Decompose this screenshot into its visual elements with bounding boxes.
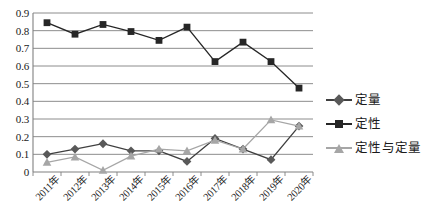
- y-tick-label: 0.8: [16, 25, 29, 36]
- plot-area: [33, 13, 313, 172]
- data-point: [267, 116, 276, 124]
- series-line: [47, 120, 299, 170]
- legend-marker-triangle-icon: [334, 144, 344, 153]
- data-point: [44, 19, 51, 26]
- data-point: [71, 153, 80, 161]
- data-point: [99, 166, 108, 174]
- legend-swatch: [326, 141, 352, 155]
- y-tick-label: 0.5: [16, 78, 29, 89]
- legend-label: 定性: [352, 117, 382, 131]
- series-line: [47, 126, 299, 161]
- legend-item-2[interactable]: 定性: [326, 112, 418, 136]
- data-point: [296, 85, 303, 92]
- x-tick-label: 2019年: [257, 174, 286, 203]
- legend-swatch: [326, 117, 352, 131]
- y-tick-label: 0.9: [16, 8, 29, 19]
- data-point: [100, 21, 107, 28]
- legend-item-1[interactable]: 定量: [326, 88, 418, 112]
- legend-item-3[interactable]: 定性与定量: [326, 136, 418, 160]
- chart-legend: 定量定性定性与定量: [326, 88, 418, 160]
- y-tick-label: 0.1: [16, 149, 29, 160]
- x-axis: 2011年2012年2013年2014年2015年2016年2017年2018年…: [33, 174, 313, 217]
- x-tick-label: 2017年: [201, 174, 230, 203]
- series-line: [47, 23, 299, 88]
- legend-label: 定量: [352, 93, 382, 107]
- y-tick-label: 0.2: [16, 131, 29, 142]
- x-tick-label: 2014年: [117, 174, 146, 203]
- data-point: [128, 28, 135, 35]
- series-layer: [33, 13, 313, 172]
- y-tick-label: 0.4: [16, 96, 29, 107]
- x-tick-label: 2012年: [61, 174, 90, 203]
- y-tick-label: 0: [24, 167, 29, 178]
- data-point: [72, 31, 79, 38]
- y-tick-label: 0.7: [16, 43, 29, 54]
- series-3: [43, 116, 304, 174]
- data-point: [99, 139, 108, 148]
- legend-label: 定性与定量: [352, 141, 422, 155]
- data-point: [240, 39, 247, 46]
- series-1: [43, 122, 304, 166]
- data-point: [43, 150, 52, 159]
- data-point: [268, 58, 275, 65]
- data-point: [212, 58, 219, 65]
- x-tick-label: 2015年: [145, 174, 174, 203]
- x-tick-label: 2016年: [173, 174, 202, 203]
- legend-marker-square-icon: [335, 120, 343, 128]
- y-axis: 0.90.80.70.60.50.40.30.20.10: [0, 13, 29, 172]
- data-point: [184, 24, 191, 31]
- series-2: [44, 19, 303, 91]
- data-point: [71, 145, 80, 154]
- legend-swatch: [326, 93, 352, 107]
- x-tick-label: 2020年: [285, 174, 314, 203]
- legend-marker-diamond-icon: [333, 94, 344, 105]
- x-tick-label: 2011年: [33, 174, 61, 202]
- y-tick-label: 0.3: [16, 114, 29, 125]
- data-point: [156, 37, 163, 44]
- x-tick-label: 2018年: [229, 174, 258, 203]
- x-tick-label: 2013年: [89, 174, 118, 203]
- y-tick-label: 0.6: [16, 61, 29, 72]
